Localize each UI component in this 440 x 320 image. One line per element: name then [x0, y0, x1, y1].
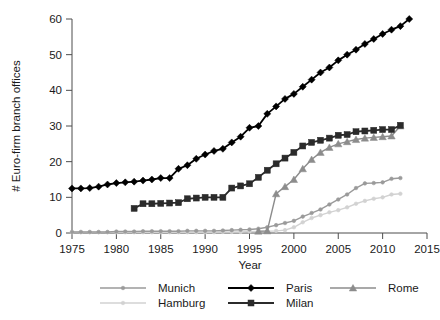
x-tick-label: 2015 [414, 243, 440, 255]
data-point-marker [389, 127, 395, 133]
data-point-marker [104, 181, 111, 188]
y-tick-label: 60 [49, 13, 62, 25]
data-point-marker [69, 185, 76, 192]
data-point-marker [362, 128, 368, 134]
data-point-marker [317, 149, 324, 156]
data-point-marker [274, 223, 278, 227]
legend-item-munich[interactable]: Munich [100, 282, 195, 294]
series-hamburg [70, 192, 402, 234]
data-point-marker [186, 229, 190, 233]
data-point-marker [354, 202, 358, 206]
data-point-marker [221, 229, 225, 233]
data-point-marker [193, 195, 199, 201]
data-point-marker [300, 143, 306, 149]
data-point-marker [336, 198, 340, 202]
data-point-marker [106, 230, 110, 234]
data-point-marker [230, 228, 234, 232]
y-tick-label: 40 [49, 84, 62, 96]
x-tick-label: 1985 [148, 243, 174, 255]
data-point-marker [292, 225, 296, 229]
data-series-layer [69, 16, 413, 235]
data-point-marker [113, 180, 120, 187]
x-tick-label: 1980 [104, 243, 130, 255]
data-point-marker [158, 200, 164, 206]
data-point-marker [273, 161, 279, 167]
x-tick-label: 2010 [370, 243, 396, 255]
data-point-marker [264, 167, 270, 173]
data-point-marker [319, 208, 323, 212]
data-point-marker [141, 229, 145, 233]
chart-figure: 0102030405060 # Euro-firm branch offices… [0, 0, 440, 320]
data-point-marker [399, 176, 403, 180]
data-point-marker [326, 135, 332, 141]
data-point-marker [239, 228, 243, 232]
data-point-marker [122, 179, 129, 186]
data-point-marker [211, 194, 217, 200]
data-point-marker [399, 192, 403, 196]
data-point-marker [140, 201, 146, 207]
series-line-milan [134, 125, 400, 208]
data-point-marker [220, 194, 226, 200]
data-point-marker [167, 200, 173, 206]
legend-item-rome[interactable]: Rome [330, 282, 419, 294]
data-point-marker [319, 213, 323, 217]
data-point-marker [97, 230, 101, 234]
data-point-marker [344, 132, 350, 138]
series-milan [131, 122, 403, 211]
data-point-marker [248, 228, 252, 232]
data-point-marker [301, 221, 305, 225]
series-line-hamburg [72, 194, 400, 233]
data-point-marker [328, 211, 332, 215]
data-point-marker [131, 205, 137, 211]
data-point-marker [238, 183, 244, 189]
data-point-marker [370, 35, 377, 42]
data-point-marker [379, 30, 386, 37]
legend-label-rome: Rome [388, 282, 419, 294]
data-point-marker [88, 230, 92, 234]
data-point-marker [310, 211, 314, 215]
data-point-marker [121, 286, 125, 290]
data-point-marker [274, 229, 278, 233]
data-point-marker [309, 139, 315, 145]
x-tick-label: 1995 [237, 243, 263, 255]
data-point-marker [121, 301, 125, 305]
legend-label-paris: Paris [286, 282, 312, 294]
line-chart: 0102030405060 # Euro-firm branch offices… [0, 0, 440, 320]
data-point-marker [194, 229, 198, 233]
data-point-marker [248, 285, 255, 292]
data-point-marker [301, 215, 305, 219]
data-point-marker [202, 151, 209, 158]
data-point-marker [229, 185, 235, 191]
data-point-marker [292, 219, 296, 223]
x-tick-label: 2000 [281, 243, 307, 255]
data-point-marker [336, 208, 340, 212]
data-point-marker [184, 196, 190, 202]
data-point-marker [381, 196, 385, 200]
legend-label-milan: Milan [286, 297, 313, 309]
data-point-marker [212, 229, 216, 233]
data-point-marker [211, 147, 218, 154]
legend-item-milan[interactable]: Milan [228, 297, 313, 309]
data-point-marker [148, 176, 155, 183]
data-point-marker [371, 127, 377, 133]
data-point-marker [363, 182, 367, 186]
data-point-marker [149, 201, 155, 207]
data-point-marker [283, 228, 287, 232]
data-point-marker [115, 230, 119, 234]
data-point-marker [150, 229, 154, 233]
data-point-marker [372, 197, 376, 201]
data-point-marker [86, 185, 93, 192]
data-point-marker [353, 129, 359, 135]
data-point-marker [157, 175, 164, 182]
data-point-marker [132, 230, 136, 234]
data-point-marker [177, 229, 181, 233]
chart-legend: MunichHamburgParisMilanRome [100, 282, 419, 309]
y-tick-label: 0 [56, 227, 62, 239]
x-axis-title: Year [238, 259, 261, 271]
series-line-rome [258, 126, 400, 231]
legend-item-hamburg[interactable]: Hamburg [100, 297, 205, 309]
data-point-marker [123, 230, 127, 234]
data-point-marker [345, 193, 349, 197]
legend-item-paris[interactable]: Paris [228, 282, 312, 294]
data-point-marker [77, 185, 84, 192]
